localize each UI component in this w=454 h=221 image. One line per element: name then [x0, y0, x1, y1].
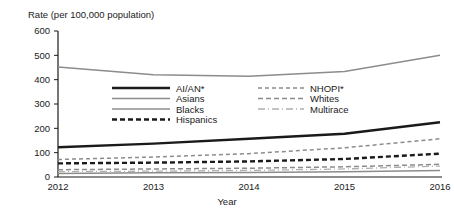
axis-lines — [58, 31, 442, 177]
y-tick-label: 300 — [34, 98, 50, 109]
legend-label-multirace: Multirace — [310, 104, 349, 115]
x-tick-label: 2015 — [334, 181, 355, 192]
y-tick-label: 500 — [34, 50, 50, 61]
legend-label-whites: Whites — [310, 93, 339, 104]
x-tick-label: 2014 — [238, 181, 259, 192]
legend-label-hispanics: Hispanics — [176, 114, 217, 125]
chart-legend: AI/AN*AsiansBlacksHispanicsNHOPI*WhitesM… — [112, 83, 349, 126]
x-tick-label: 2016 — [429, 181, 450, 192]
y-tick-label: 200 — [34, 123, 50, 134]
line-chart-plot: 0100200300400500600 20122013201420152016… — [0, 0, 454, 221]
chart-container: Rate (per 100,000 population) Year 01002… — [0, 0, 454, 221]
series-line-group — [58, 55, 440, 173]
legend-label-blacks: Blacks — [176, 104, 204, 115]
x-tick-label: 2012 — [47, 181, 68, 192]
legend-label-aian: AI/AN* — [176, 83, 205, 94]
x-tick-label: 2013 — [143, 181, 164, 192]
series-line-blacks — [58, 55, 440, 76]
x-tick-label-group: 20122013201420152016 — [47, 181, 450, 192]
legend-label-nhopi: NHOPI* — [310, 83, 344, 94]
y-tick-label: 100 — [34, 147, 50, 158]
y-tick-label: 400 — [34, 74, 50, 85]
y-tick-label: 600 — [34, 25, 50, 36]
y-tick-label-group: 0100200300400500600 — [34, 25, 58, 182]
legend-label-asians: Asians — [176, 93, 205, 104]
series-line-whites — [58, 164, 440, 169]
